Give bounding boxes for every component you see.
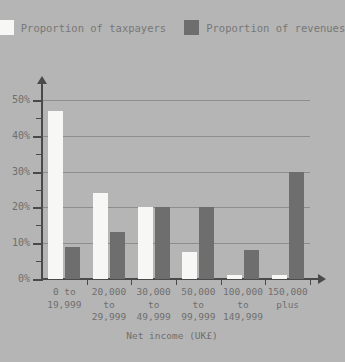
x-axis-category-labels: 0 to 19,99920,000 to 29,99930,000 to 49,… [42,286,310,336]
bar-taxpayers[interactable] [93,193,108,279]
bar-group [42,100,87,279]
x-axis-tick [221,280,222,285]
bar-revenues[interactable] [155,207,170,279]
y-axis-label: 10% [0,238,30,248]
bar-group [131,100,176,279]
x-axis-category-label: 150,000 plus [259,286,316,311]
bar-taxpayers[interactable] [182,252,197,279]
x-axis-arrow [318,274,326,284]
x-axis-tick [265,280,266,285]
y-axis-tick-major [33,172,42,174]
x-axis-title: Net income (UK£) [0,330,344,341]
bar-group [87,100,132,279]
y-axis-label: 0% [0,274,30,284]
bar-taxpayers[interactable] [48,111,63,279]
y-axis-arrow [37,76,47,84]
y-axis-label: 50% [0,95,30,105]
y-axis-label: 40% [0,131,30,141]
y-axis-tick-major [33,207,42,209]
y-axis-tick-major [33,243,42,245]
bar-group [221,100,266,279]
bar-revenues[interactable] [65,247,80,279]
y-axis-labels: 0%10%20%30%40%50% [0,0,30,362]
x-axis-tick [87,280,88,285]
bar-revenues[interactable] [289,172,304,279]
bar-revenues[interactable] [110,232,125,279]
bar-taxpayers[interactable] [138,207,153,279]
bar-revenues[interactable] [244,250,259,279]
x-axis-tick [310,280,311,285]
y-axis-label: 30% [0,167,30,177]
bar-series-container [42,100,310,279]
y-axis-tick-major [33,100,42,102]
y-axis-tick-major [33,136,42,138]
x-axis-tick [176,280,177,285]
bar-group [176,100,221,279]
y-axis-label: 20% [0,202,30,212]
y-axis-tick-major [33,279,42,281]
x-axis-tick [131,280,132,285]
bar-revenues[interactable] [199,207,214,279]
bar-taxpayers[interactable] [227,275,242,279]
bar-taxpayers[interactable] [272,275,287,279]
bar-group [265,100,310,279]
